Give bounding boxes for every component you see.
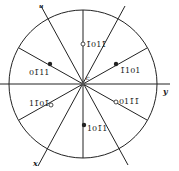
open-pole-marker bbox=[114, 100, 118, 104]
x-axis-line bbox=[38, 6, 125, 166]
pole-label: 11̄01̄ bbox=[29, 99, 49, 108]
y-axis-label: y bbox=[162, 86, 169, 96]
pole-3: 1̄101 bbox=[114, 62, 141, 75]
pole-6: 101̄1 bbox=[82, 123, 108, 133]
pole-label: 1̄101 bbox=[120, 66, 140, 75]
pole-label: 101̄1 bbox=[87, 124, 107, 133]
pole-label: 1̄011̄ bbox=[86, 40, 106, 49]
pole-5: 011̄1̄ bbox=[114, 97, 139, 106]
pole-label: 01̄11 bbox=[29, 68, 49, 77]
u-axis-line bbox=[41, 6, 128, 165]
x-axis-label: x bbox=[32, 158, 38, 168]
center-point bbox=[81, 82, 85, 86]
filled-pole-marker bbox=[82, 123, 86, 127]
filled-pole-marker bbox=[48, 62, 52, 66]
filled-pole-marker bbox=[114, 62, 118, 66]
pole-label: 011̄1̄ bbox=[119, 97, 139, 106]
pole-4: 11̄01̄ bbox=[29, 99, 53, 108]
open-pole-marker bbox=[49, 103, 53, 107]
pole-2: 01̄11 bbox=[29, 62, 52, 77]
open-pole-marker bbox=[81, 42, 85, 46]
u-axis-label: u bbox=[39, 2, 44, 9]
pole-1: 1̄011̄ bbox=[81, 40, 106, 49]
stereogram: c u y x 1̄011̄ 01̄11 1̄101 11̄01̄ 011̄1̄… bbox=[0, 0, 179, 171]
